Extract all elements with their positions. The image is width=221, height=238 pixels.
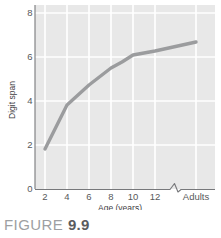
figure-container: 0 2 4 6 8 2 4 6 8 10 12 Adults Age (year… [0, 0, 221, 238]
plot-background [35, 5, 215, 189]
y-tick-label-6: 6 [27, 51, 32, 62]
x-tick-label-10: 10 [128, 191, 139, 202]
figure-caption: FIGURE 9.9 [4, 213, 217, 235]
chart-area: 0 2 4 6 8 2 4 6 8 10 12 Adults Age (year… [0, 0, 221, 210]
x-tick-label-12: 12 [150, 191, 161, 202]
x-tick-label-adults: Adults [183, 191, 210, 202]
y-tick-label-8: 8 [27, 7, 32, 18]
x-axis-title: Age (years) [98, 203, 142, 210]
y-axis-title: Digit span [7, 81, 17, 119]
x-tick-label-4: 4 [64, 191, 69, 202]
digit-span-line-chart: 0 2 4 6 8 2 4 6 8 10 12 Adults Age (year… [0, 0, 221, 210]
x-tick-label-2: 2 [42, 191, 47, 202]
x-tick-label-6: 6 [86, 191, 91, 202]
figure-caption-number: 9.9 [68, 216, 89, 233]
y-tick-label-0: 0 [27, 183, 32, 194]
y-tick-label-2: 2 [27, 139, 32, 150]
figure-caption-word: FIGURE [4, 216, 63, 233]
x-tick-label-8: 8 [108, 191, 113, 202]
y-tick-label-4: 4 [27, 95, 32, 106]
